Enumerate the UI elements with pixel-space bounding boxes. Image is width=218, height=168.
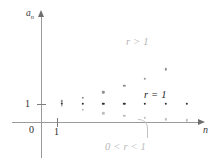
- data-point: [165, 102, 167, 104]
- y-axis-tick-1: [37, 104, 46, 105]
- y-axis-arrow-icon: [38, 10, 44, 17]
- annotation-r-greater-than-1: r > 1: [126, 36, 149, 47]
- data-point: [102, 102, 104, 104]
- data-point: [81, 96, 83, 98]
- data-point: [102, 91, 104, 93]
- data-point: [81, 109, 83, 111]
- y-axis-label-subscript: n: [31, 13, 34, 20]
- geometric-sequence-plot: an n 0 1 1 r > 1 r = 1 0 < r < 1: [0, 0, 218, 168]
- data-point: [165, 68, 167, 70]
- data-point: [102, 112, 104, 114]
- data-point: [165, 118, 167, 120]
- data-point: [61, 105, 63, 107]
- y-axis-label: an: [26, 8, 34, 20]
- x-axis-tick-label-1: 1: [54, 126, 59, 137]
- data-point: [144, 117, 146, 119]
- annotation-r-between-0-and-1: 0 < r < 1: [105, 141, 146, 152]
- x-axis-label: n: [203, 124, 208, 135]
- data-point: [144, 77, 146, 79]
- data-point: [123, 115, 125, 117]
- data-point: [81, 102, 83, 104]
- y-axis-tick-label-1: 1: [25, 98, 30, 109]
- x-axis-line: [12, 122, 200, 123]
- annotation-r-equals-1: r = 1: [144, 89, 167, 100]
- data-point: [185, 119, 187, 121]
- data-point: [123, 85, 125, 87]
- y-axis-line: [41, 16, 42, 158]
- data-point: [123, 102, 125, 104]
- data-point: [144, 102, 146, 104]
- origin-label: 0: [29, 124, 34, 135]
- data-point: [185, 102, 187, 104]
